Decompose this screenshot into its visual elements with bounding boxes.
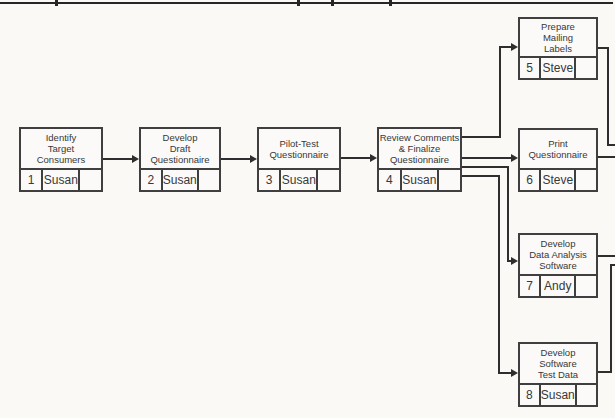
connector-segment — [498, 175, 500, 374]
task-title-line: Questionnaire — [390, 154, 449, 165]
task-meta-row: 8 Susan — [520, 383, 596, 405]
task-node-4: Review Comments & Finalize Questionnaire… — [377, 127, 462, 192]
task-node-2: Develop Draft Questionnaire 2 Susan — [139, 127, 221, 192]
connector-segment — [462, 175, 500, 177]
task-title-line: Develop — [541, 347, 576, 358]
task-title-line: Identify — [46, 132, 77, 143]
task-empty-cell — [576, 170, 596, 190]
task-meta-row: 3 Susan — [259, 168, 339, 190]
task-title-line: Target — [48, 143, 74, 154]
task-owner: Andy — [541, 276, 576, 296]
text-descender-mark — [389, 0, 392, 6]
task-title-line: & Finalize — [399, 143, 441, 154]
connector-segment — [462, 157, 511, 159]
task-title: Develop Data Analysis Software — [520, 235, 596, 274]
connector-arrowhead — [511, 154, 518, 162]
task-owner: Susan — [541, 385, 577, 405]
connector-segment — [610, 265, 612, 373]
connector-segment — [607, 144, 615, 146]
task-owner: Susan — [281, 170, 318, 190]
network-diagram: Identify Target Consumers 1 Susan Develo… — [0, 0, 615, 418]
task-meta-row: 5 Steve — [520, 56, 596, 78]
task-number: 8 — [520, 385, 541, 405]
task-title-line: Review Comments — [380, 132, 460, 143]
task-node-1: Identify Target Consumers 1 Susan — [19, 127, 103, 192]
task-node-3: Pilot-Test Questionnaire 3 Susan — [257, 127, 341, 192]
connector-arrowhead — [511, 369, 518, 377]
task-title: Prepare Mailing Labels — [520, 19, 596, 56]
task-title: Pilot-Test Questionnaire — [259, 129, 339, 168]
task-number: 7 — [520, 276, 541, 296]
connector-arrowhead — [132, 155, 139, 163]
task-node-5: Prepare Mailing Labels 5 Steve — [518, 17, 598, 80]
task-node-6: Print Questionnaire 6 Steve — [518, 128, 598, 192]
task-title-line: Questionnaire — [150, 154, 209, 165]
task-empty-cell — [199, 170, 219, 190]
connector-segment — [341, 157, 371, 159]
task-title-line: Prepare — [541, 21, 575, 32]
task-title-line: Data Analysis — [529, 249, 587, 260]
task-number: 4 — [379, 170, 402, 190]
task-number: 2 — [141, 170, 163, 190]
connector-segment — [462, 136, 501, 138]
task-owner: Steve — [541, 170, 576, 190]
task-title-line: Consumers — [37, 154, 86, 165]
connector-segment — [610, 264, 615, 266]
task-title-line: Pilot-Test — [279, 138, 318, 149]
task-empty-cell — [80, 170, 101, 190]
task-number: 6 — [520, 170, 541, 190]
connector-arrowhead — [370, 154, 377, 162]
connector-segment — [598, 156, 615, 158]
task-title-line: Questionnaire — [269, 149, 328, 160]
task-empty-cell — [576, 58, 596, 78]
task-number: 5 — [520, 58, 541, 78]
task-node-7: Develop Data Analysis Software 7 Andy — [518, 233, 598, 298]
task-title-line: Questionnaire — [528, 149, 587, 160]
text-descender-mark — [331, 0, 334, 6]
task-title: Identify Target Consumers — [21, 129, 101, 168]
task-title-line: Develop — [163, 132, 198, 143]
task-title-line: Test Data — [538, 369, 578, 380]
connector-segment — [598, 255, 615, 257]
text-descender-mark — [55, 0, 58, 6]
top-crop-rule — [0, 2, 613, 4]
task-node-8: Develop Software Test Data 8 Susan — [518, 342, 598, 407]
task-title-line: Labels — [544, 43, 572, 54]
connector-segment — [498, 372, 512, 374]
connector-segment — [607, 47, 609, 146]
connector-segment — [507, 166, 509, 262]
task-empty-cell — [439, 170, 460, 190]
task-title-line: Draft — [170, 143, 191, 154]
task-title-line: Software — [539, 358, 577, 369]
task-owner: Steve — [541, 58, 576, 78]
connector-arrowhead — [511, 43, 518, 51]
connector-segment — [103, 158, 133, 160]
connector-segment — [221, 158, 251, 160]
task-meta-row: 1 Susan — [21, 168, 101, 190]
task-number: 3 — [259, 170, 281, 190]
task-title-line: Print — [548, 138, 568, 149]
connector-arrowhead — [250, 155, 257, 163]
task-title: Develop Software Test Data — [520, 344, 596, 383]
task-number: 1 — [21, 170, 43, 190]
task-title: Print Questionnaire — [520, 130, 596, 168]
connector-segment — [462, 166, 509, 168]
task-title-line: Develop — [541, 238, 576, 249]
task-meta-row: 4 Susan — [379, 168, 460, 190]
task-title: Review Comments & Finalize Questionnaire — [379, 129, 460, 168]
task-owner: Susan — [163, 170, 199, 190]
connector-segment — [499, 47, 501, 138]
task-title: Develop Draft Questionnaire — [141, 129, 219, 168]
task-meta-row: 6 Steve — [520, 168, 596, 190]
connector-arrowhead — [511, 257, 518, 265]
task-owner: Susan — [43, 170, 80, 190]
task-owner: Susan — [402, 170, 439, 190]
text-descender-mark — [297, 0, 300, 6]
task-empty-cell — [576, 276, 596, 296]
task-meta-row: 2 Susan — [141, 168, 219, 190]
task-title-line: Mailing — [543, 32, 573, 43]
task-empty-cell — [577, 385, 596, 405]
task-title-line: Software — [539, 260, 577, 271]
task-empty-cell — [318, 170, 339, 190]
task-meta-row: 7 Andy — [520, 274, 596, 296]
